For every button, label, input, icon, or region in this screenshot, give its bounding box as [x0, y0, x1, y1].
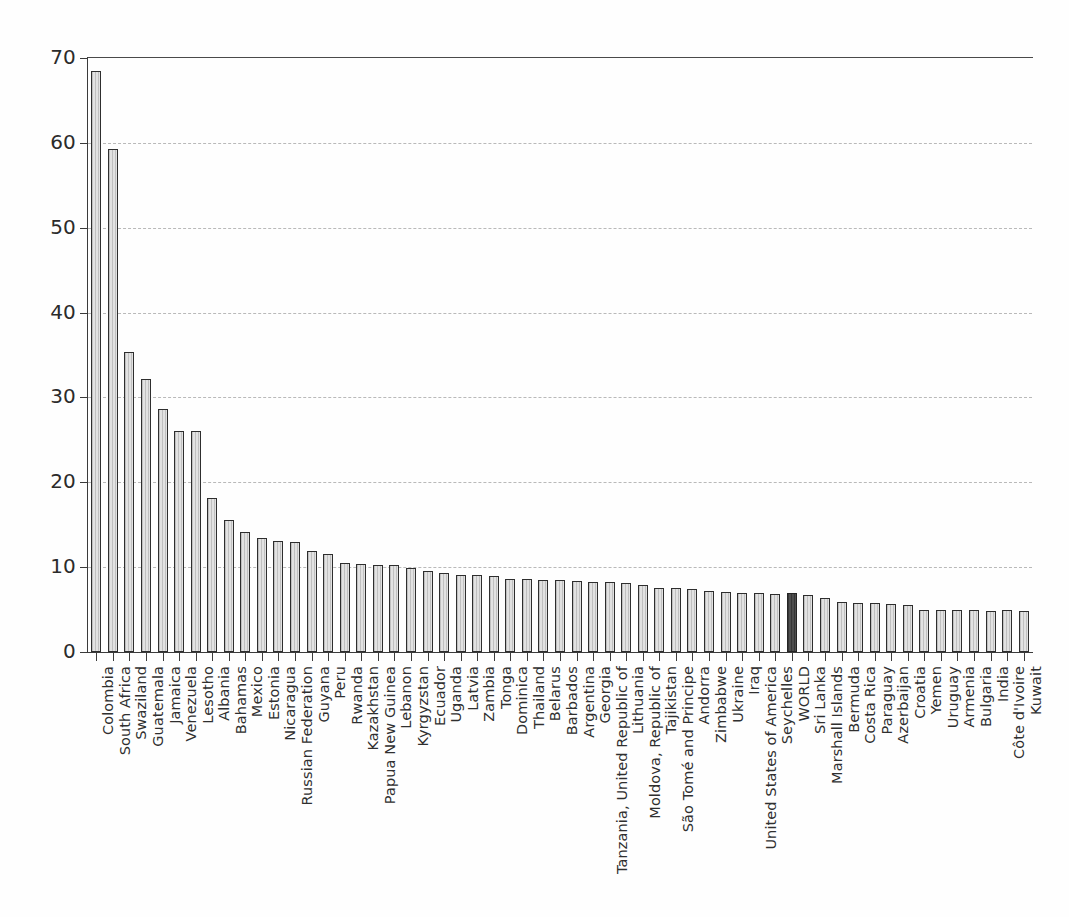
x-tick-mark — [295, 653, 296, 661]
x-tick-label: Estonia — [267, 666, 282, 720]
bar — [770, 594, 780, 652]
x-tick-mark — [709, 653, 710, 661]
x-tick-label: Côte d'Ivoire — [1012, 666, 1027, 759]
gridline — [88, 228, 1032, 229]
x-tick-mark — [957, 653, 958, 661]
x-tick-label: Uruguay — [946, 666, 961, 728]
x-tick-mark — [494, 653, 495, 661]
x-tick-mark — [312, 653, 313, 661]
x-tick-mark — [842, 653, 843, 661]
x-tick-mark — [676, 653, 677, 661]
y-tick-mark — [80, 58, 87, 59]
bar — [307, 551, 317, 652]
x-tick-mark — [577, 653, 578, 661]
x-tick-label: Yemen — [929, 666, 944, 715]
x-tick-label: Russian Federation — [300, 666, 315, 805]
y-tick-mark — [80, 652, 87, 653]
x-tick-label: Zimbabwe — [714, 666, 729, 743]
x-tick-label: Venezuela — [184, 666, 199, 741]
x-tick-label: São Tomé and Principe — [681, 666, 696, 832]
bar — [191, 431, 201, 652]
x-tick-label: Colombia — [101, 666, 116, 735]
y-tick-mark — [80, 397, 87, 398]
bar — [456, 575, 466, 652]
x-tick-mark — [345, 653, 346, 661]
y-tick-mark — [80, 567, 87, 568]
x-tick-mark — [229, 653, 230, 661]
gridline — [88, 482, 1032, 483]
x-tick-mark — [908, 653, 909, 661]
x-tick-label: Costa Rica — [863, 666, 878, 744]
bar — [555, 580, 565, 652]
bar — [588, 582, 598, 652]
x-tick-mark — [808, 653, 809, 661]
y-tick-label: 10 — [28, 554, 76, 578]
bar — [572, 581, 582, 652]
bar — [737, 593, 747, 652]
x-tick-mark — [527, 653, 528, 661]
x-tick-label: Bahamas — [234, 666, 249, 734]
bar — [538, 580, 548, 652]
x-tick-mark — [991, 653, 992, 661]
plot-area — [88, 58, 1032, 652]
x-tick-mark — [328, 653, 329, 661]
x-tick-mark — [444, 653, 445, 661]
bar — [423, 571, 433, 652]
x-tick-label: Guatemala — [151, 666, 166, 747]
x-tick-mark — [626, 653, 627, 661]
x-tick-label: Lesotho — [201, 666, 216, 724]
bar — [886, 604, 896, 652]
x-tick-label: Peru — [333, 666, 348, 699]
x-tick-label: South Africa — [118, 666, 133, 755]
bar — [489, 576, 499, 652]
x-tick-label: Lithuania — [631, 666, 646, 734]
x-tick-mark — [394, 653, 395, 661]
x-tick-label: Kazakhstan — [366, 666, 381, 751]
x-tick-mark — [163, 653, 164, 661]
x-tick-mark — [560, 653, 561, 661]
x-tick-label: Swaziland — [134, 666, 149, 740]
x-tick-mark — [378, 653, 379, 661]
bar — [290, 542, 300, 652]
bar — [124, 352, 134, 652]
x-tick-mark — [361, 653, 362, 661]
x-tick-label: Zambia — [482, 666, 497, 722]
x-tick-label: Dominica — [515, 666, 530, 735]
y-tick-mark — [80, 143, 87, 144]
x-tick-mark — [212, 653, 213, 661]
x-tick-mark — [593, 653, 594, 661]
bar — [141, 379, 151, 652]
bar — [952, 610, 962, 652]
bar — [1002, 610, 1012, 652]
x-tick-label: Iraq — [747, 666, 762, 695]
x-tick-label: Tajikistan — [664, 666, 679, 734]
bar — [654, 588, 664, 652]
bar — [356, 564, 366, 652]
bar — [621, 583, 631, 652]
x-tick-label: Paraguay — [880, 666, 895, 735]
x-tick-label: Albania — [217, 666, 232, 721]
bar — [919, 610, 929, 652]
x-tick-mark — [428, 653, 429, 661]
bar — [870, 603, 880, 652]
y-tick-label: 70 — [28, 45, 76, 69]
x-tick-mark — [659, 653, 660, 661]
x-tick-label: Kyrgyzstan — [416, 666, 431, 746]
bar — [638, 585, 648, 652]
x-tick-label: Uganda — [449, 666, 464, 723]
y-tick-label: 50 — [28, 215, 76, 239]
y-tick-mark — [80, 313, 87, 314]
x-tick-mark — [278, 653, 279, 661]
x-tick-mark — [891, 653, 892, 661]
x-tick-label: Moldova, Republic of — [648, 666, 663, 819]
x-tick-label: Rwanda — [350, 666, 365, 725]
bar-chart: 010203040506070 ColombiaSouth AfricaSwaz… — [0, 0, 1069, 917]
x-tick-label: Tonga — [499, 666, 514, 709]
x-tick-label: Ecuador — [433, 666, 448, 726]
bar — [671, 588, 681, 652]
x-tick-mark — [129, 653, 130, 661]
x-tick-label: Belarus — [548, 666, 563, 721]
x-tick-mark — [858, 653, 859, 661]
x-tick-mark — [1007, 653, 1008, 661]
x-tick-label: Guyana — [317, 666, 332, 723]
